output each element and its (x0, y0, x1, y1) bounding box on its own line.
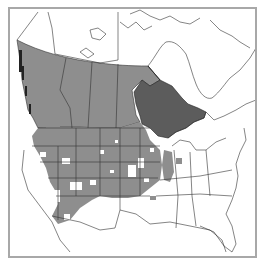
range-map (0, 0, 267, 270)
